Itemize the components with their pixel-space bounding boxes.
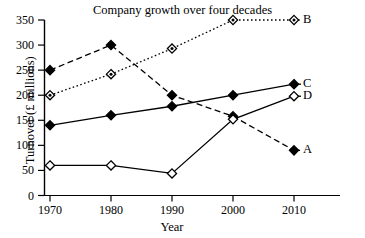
data-point-marker-A <box>45 66 54 75</box>
data-point-marker-A <box>289 146 298 155</box>
y-axis-tick-label: 350 <box>0 14 34 26</box>
x-axis-tick-label: 2010 <box>274 204 314 216</box>
x-axis-tick-label: 2000 <box>213 204 253 216</box>
data-point-marker-dot-B <box>49 94 52 97</box>
data-point-marker-dot-B <box>293 19 296 22</box>
series-label-A: A <box>303 143 312 156</box>
y-axis-tick-label: 250 <box>0 64 34 76</box>
series-label-D: D <box>303 89 312 102</box>
y-axis-tick-label: 300 <box>0 39 34 51</box>
y-axis-tick-label: 50 <box>0 164 34 176</box>
x-axis-tick-label: 1990 <box>152 204 192 216</box>
data-point-marker-C <box>167 102 176 111</box>
series-label-B: B <box>303 13 311 26</box>
series-markers <box>45 15 298 178</box>
chart-container: Company growth over four decades Turnove… <box>0 0 365 238</box>
x-axis-tick-label: 1980 <box>91 204 131 216</box>
axes <box>45 20 341 196</box>
data-point-marker-D <box>289 92 298 101</box>
y-axis-ticks <box>38 20 45 196</box>
series-line-B <box>50 20 294 95</box>
x-axis-tick-label: 1970 <box>30 204 70 216</box>
data-point-marker-C <box>106 111 115 120</box>
y-axis-tick-label: 200 <box>0 89 34 101</box>
data-point-marker-D <box>106 161 115 170</box>
data-point-marker-dot-B <box>232 19 235 22</box>
data-point-marker-C <box>289 80 298 89</box>
data-point-marker-A <box>167 91 176 100</box>
data-point-marker-D <box>45 161 54 170</box>
data-point-marker-C <box>45 121 54 130</box>
x-axis-ticks <box>50 196 294 202</box>
y-axis-tick-label: 100 <box>0 139 34 151</box>
data-point-marker-dot-B <box>171 47 174 50</box>
y-axis-tick-label: 0 <box>0 190 34 202</box>
y-axis-tick-label: 150 <box>0 114 34 126</box>
data-point-marker-dot-B <box>110 73 113 76</box>
data-point-marker-C <box>228 91 237 100</box>
